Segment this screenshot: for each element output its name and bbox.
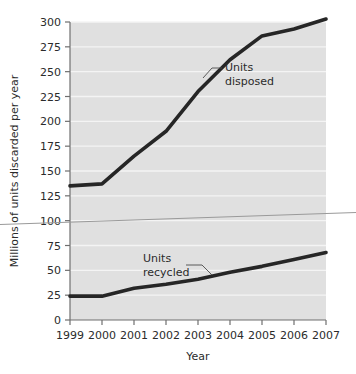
y-axis-tick-label: 150 (40, 165, 61, 178)
x-axis-title: Year (185, 350, 210, 363)
annotation-units-disposed-line1: Units (225, 61, 253, 74)
x-axis-tick-label: 1999 (56, 329, 84, 342)
y-axis-tick-label: 125 (40, 190, 61, 203)
x-axis-tick-label: 2000 (88, 329, 116, 342)
y-axis-tick-label: 250 (40, 66, 61, 79)
y-axis-tick-label: 0 (54, 314, 61, 327)
x-axis-tick-label: 2001 (120, 329, 148, 342)
y-axis-tick-label: 175 (40, 140, 61, 153)
annotation-units-disposed-line2: disposed (225, 75, 274, 88)
x-axis-tick-label: 2006 (280, 329, 308, 342)
y-axis-tick-label: 200 (40, 115, 61, 128)
y-axis-ticks: 0255075100125150175200225250275300 (40, 16, 70, 327)
annotation-units-recycled-line1: Units (143, 252, 171, 265)
x-axis-tick-label: 2004 (216, 329, 244, 342)
chart-figure: 0255075100125150175200225250275300 19992… (0, 0, 356, 374)
x-axis-tick-label: 2002 (152, 329, 180, 342)
line-chart: 0255075100125150175200225250275300 19992… (0, 0, 356, 374)
x-axis-tick-label: 2007 (312, 329, 340, 342)
y-axis-tick-label: 75 (47, 240, 61, 253)
y-axis-tick-label: 300 (40, 16, 61, 29)
y-axis-tick-label: 50 (47, 264, 61, 277)
x-axis-ticks: 199920002001200220032004200520062007 (56, 320, 340, 342)
y-axis-title: Millions of units discarded per year (8, 74, 21, 267)
y-axis-tick-label: 275 (40, 41, 61, 54)
y-axis-tick-label: 100 (40, 215, 61, 228)
x-axis-tick-label: 2005 (248, 329, 276, 342)
y-axis-tick-label: 225 (40, 91, 61, 104)
x-axis-tick-label: 2003 (184, 329, 212, 342)
y-axis-tick-label: 25 (47, 289, 61, 302)
annotation-units-recycled-line2: recycled (143, 266, 189, 279)
